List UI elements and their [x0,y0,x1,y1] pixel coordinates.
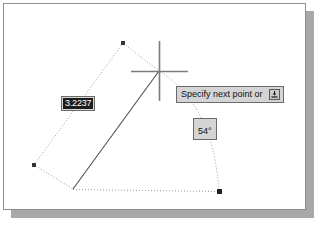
down-arrow-into-tray-icon[interactable] [269,89,280,100]
distance-input[interactable]: 3.2237 [61,96,95,111]
distance-input-value: 3.2237 [63,98,93,109]
vertex-marker-top [121,41,125,45]
polar-tracking-box [34,43,159,189]
command-prompt-text: Specify next point or [181,89,263,100]
angle-input-value: 54° [198,126,212,136]
rubber-band-line [73,71,159,189]
drawing-page: 3.2237 Specify next point or 54° [3,3,306,210]
vertex-marker-left [32,163,36,167]
angle-input[interactable]: 54° [193,118,217,140]
base-tracking-line [73,190,219,192]
drawing-canvas[interactable] [4,4,306,210]
vertex-marker-bottom-right [217,189,222,194]
command-prompt-tooltip: Specify next point or [176,86,284,103]
screenshot-root: 3.2237 Specify next point or 54° [0,0,322,229]
